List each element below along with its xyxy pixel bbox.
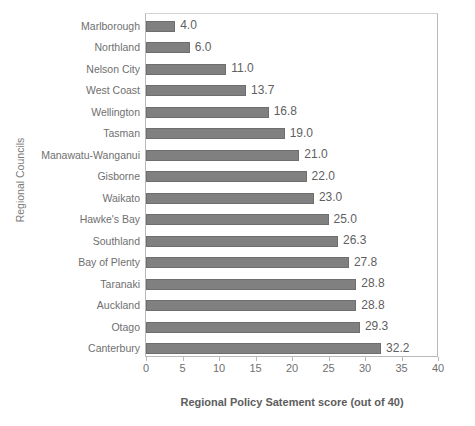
bar <box>146 64 226 75</box>
category-label: Tasman <box>28 128 140 139</box>
bar <box>146 42 190 53</box>
bar-value-label: 25.0 <box>334 214 357 225</box>
category-label: Wellington <box>28 107 140 118</box>
x-tick-label: 35 <box>389 362 415 375</box>
category-label: Gisborne <box>28 171 140 182</box>
bar-value-label: 4.0 <box>180 20 197 31</box>
bar-value-label: 32.2 <box>386 343 409 354</box>
bar <box>146 193 314 204</box>
category-label: Nelson City <box>28 64 140 75</box>
category-label: Otago <box>28 322 140 333</box>
x-tick-mark <box>292 357 293 361</box>
x-axis-ticks: 0510152025303540 <box>146 357 438 379</box>
bar-value-label: 26.3 <box>343 235 366 246</box>
x-tick-mark <box>438 357 439 361</box>
bars-layer: 4.06.011.013.716.819.021.022.023.025.026… <box>146 14 438 356</box>
x-tick-mark <box>219 357 220 361</box>
bar-value-label: 21.0 <box>304 149 327 160</box>
bar <box>146 21 175 32</box>
bar <box>146 85 246 96</box>
x-tick-mark <box>329 357 330 361</box>
category-label: Auckland <box>28 300 140 311</box>
bar <box>146 343 381 354</box>
category-label: Manawatu-Wanganui <box>28 150 140 161</box>
bar-value-label: 27.8 <box>354 257 377 268</box>
bar <box>146 107 269 118</box>
category-label: Marlborough <box>28 21 140 32</box>
category-label: Southland <box>28 236 140 247</box>
bar-value-label: 16.8 <box>274 106 297 117</box>
x-tick-label: 0 <box>133 362 159 375</box>
category-label: Bay of Plenty <box>28 257 140 268</box>
x-tick-mark <box>256 357 257 361</box>
x-tick-label: 30 <box>352 362 378 375</box>
category-axis-labels: MarlboroughNorthlandNelson CityWest Coas… <box>30 14 140 356</box>
x-tick-mark <box>183 357 184 361</box>
category-label: Canterbury <box>28 343 140 354</box>
bar <box>146 150 299 161</box>
x-tick-label: 40 <box>425 362 451 375</box>
x-tick-label: 20 <box>279 362 305 375</box>
bar <box>146 236 338 247</box>
x-axis-title: Regional Policy Satement score (out of 4… <box>145 396 439 408</box>
x-tick-mark <box>365 357 366 361</box>
y-axis-title-text: Regional Councils <box>14 120 26 240</box>
bar-value-label: 13.7 <box>251 85 274 96</box>
category-label: Hawke's Bay <box>28 214 140 225</box>
bar-value-label: 23.0 <box>319 192 342 203</box>
bar <box>146 171 307 182</box>
category-label: Northland <box>28 42 140 53</box>
category-label: Taranaki <box>28 279 140 290</box>
bar-value-label: 28.8 <box>361 278 384 289</box>
x-tick-mark <box>146 357 147 361</box>
x-tick-label: 15 <box>243 362 269 375</box>
bar <box>146 214 329 225</box>
bar <box>146 279 356 290</box>
bar-chart: Regional Councils MarlboroughNorthlandNe… <box>0 0 475 426</box>
bar-value-label: 22.0 <box>312 171 335 182</box>
bar <box>146 257 349 268</box>
category-label: West Coast <box>28 85 140 96</box>
x-tick-label: 25 <box>316 362 342 375</box>
category-label: Waikato <box>28 193 140 204</box>
bar <box>146 300 356 311</box>
bar <box>146 128 285 139</box>
x-tick-label: 10 <box>206 362 232 375</box>
x-tick-mark <box>402 357 403 361</box>
bar-value-label: 29.3 <box>365 321 388 332</box>
bar-value-label: 19.0 <box>290 128 313 139</box>
x-tick-label: 5 <box>170 362 196 375</box>
bar <box>146 322 360 333</box>
bar-value-label: 28.8 <box>361 300 384 311</box>
bar-value-label: 11.0 <box>231 63 253 74</box>
bar-value-label: 6.0 <box>195 42 212 53</box>
